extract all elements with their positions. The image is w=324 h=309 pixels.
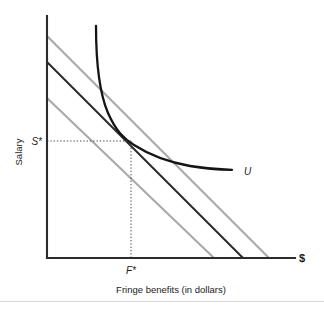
budget-line-high bbox=[47, 36, 269, 258]
indifference-curve-u bbox=[96, 26, 232, 170]
curve-label-u: U bbox=[244, 166, 252, 177]
y-axis-title: Salary bbox=[13, 138, 24, 165]
x-axis-title: Fringe benefits (in dollars) bbox=[116, 284, 226, 295]
dollar-sign-label: $ bbox=[299, 252, 305, 264]
x-axis-tick-label-f-star: F* bbox=[126, 265, 137, 276]
figure-root: Salary S* F* Fringe benefits (in dollars… bbox=[0, 0, 324, 309]
budget-line-mid bbox=[47, 62, 243, 258]
y-axis-tick-label-s-star: S* bbox=[31, 136, 43, 147]
bottom-separator-rule bbox=[0, 301, 324, 302]
indifference-curve-chart: Salary S* F* Fringe benefits (in dollars… bbox=[0, 0, 324, 309]
